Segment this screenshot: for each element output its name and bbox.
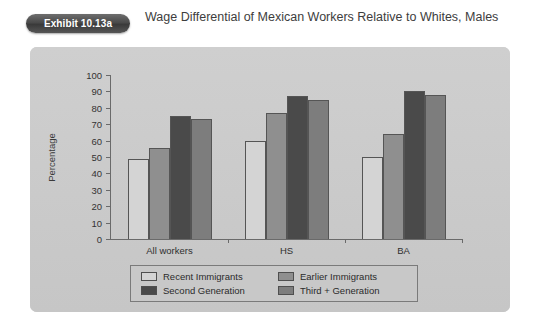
x-axis-tick-mark (228, 239, 229, 243)
legend-label: Earlier Immigrants (300, 271, 377, 282)
y-axis-tick-mark (106, 141, 110, 142)
y-axis-tick-label: 10 (70, 217, 102, 228)
y-axis-tick-mark (106, 91, 110, 92)
y-axis-label: Percentage (46, 108, 57, 208)
bar (383, 134, 404, 239)
bar (128, 159, 149, 239)
legend-swatch (278, 272, 294, 281)
y-axis-tick-mark (106, 75, 110, 76)
bar (362, 157, 383, 239)
bar (308, 100, 329, 239)
y-axis-tick-mark (106, 206, 110, 207)
y-axis-tick-label: 30 (70, 184, 102, 195)
chart-panel: Percentage 1009080706050403020100 All wo… (30, 47, 510, 312)
legend-swatch (141, 286, 157, 295)
bar-group (228, 75, 345, 239)
x-axis-line (110, 239, 462, 240)
x-axis-category-label: BA (397, 245, 410, 256)
x-axis-category-label: All workers (146, 245, 192, 256)
y-axis-tick-label: 80 (70, 102, 102, 113)
legend-item: Second Generation (141, 285, 272, 296)
y-axis-tick-label: 40 (70, 168, 102, 179)
bar (191, 119, 212, 239)
page-title: Wage Differential of Mexican Workers Rel… (145, 10, 525, 25)
y-axis-tick-label: 70 (70, 119, 102, 130)
x-axis-category-label: HS (280, 245, 293, 256)
bar (287, 96, 308, 240)
bar (404, 91, 425, 239)
y-axis-tick-mark (106, 190, 110, 191)
y-axis-tick-label: 60 (70, 135, 102, 146)
legend-label: Recent Immigrants (163, 271, 243, 282)
y-axis-tick-mark (106, 157, 110, 158)
bar (149, 148, 170, 239)
legend-label: Second Generation (163, 285, 245, 296)
y-axis-tick-label: 90 (70, 86, 102, 97)
y-axis-tick-label: 100 (70, 70, 102, 81)
bar (170, 116, 191, 239)
y-axis-tick-mark (106, 124, 110, 125)
y-axis-tick-label: 20 (70, 201, 102, 212)
bar (245, 141, 266, 239)
legend-item: Earlier Immigrants (278, 271, 409, 282)
y-axis-tick-mark (106, 108, 110, 109)
y-axis-ticks: 1009080706050403020100 (70, 75, 106, 239)
y-axis-tick-label: 50 (70, 152, 102, 163)
legend-item: Recent Immigrants (141, 271, 272, 282)
bar-group (111, 75, 228, 239)
x-axis-tick-mark (345, 239, 346, 243)
legend-item: Third + Generation (278, 285, 409, 296)
y-axis-tick-mark (106, 239, 110, 240)
y-axis-tick-label: 0 (70, 234, 102, 245)
y-axis-tick-mark (106, 223, 110, 224)
bar (266, 113, 287, 239)
bars-container (111, 75, 462, 239)
bar-group (345, 75, 462, 239)
exhibit-badge: Exhibit 10.13a (26, 14, 130, 33)
x-axis-tick-mark (462, 239, 463, 243)
legend-label: Third + Generation (300, 285, 379, 296)
exhibit-header: Exhibit 10.13a Wage Differential of Mexi… (0, 0, 542, 52)
y-axis-tick-mark (106, 173, 110, 174)
bar (425, 95, 446, 239)
chart-legend: Recent ImmigrantsEarlier ImmigrantsSecon… (130, 265, 418, 302)
legend-swatch (278, 286, 294, 295)
legend-swatch (141, 272, 157, 281)
